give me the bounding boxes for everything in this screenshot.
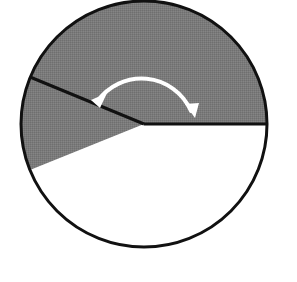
geometry-figure-container [0, 0, 297, 282]
circle-sector-angle-diagram [0, 0, 297, 282]
